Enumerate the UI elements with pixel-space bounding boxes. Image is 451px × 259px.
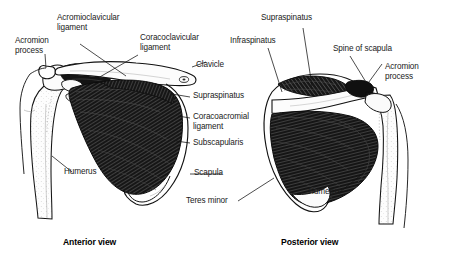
leader-acromion-process-right bbox=[366, 64, 382, 86]
label-humerus-posterior: Humerus bbox=[308, 187, 341, 197]
label-humerus-anterior: Humerus bbox=[64, 167, 97, 177]
acromion-process-anterior bbox=[39, 65, 56, 78]
label-coracoacromial-ligament: Coracoacromial ligament bbox=[193, 112, 249, 132]
label-teres-minor: Teres minor bbox=[186, 196, 228, 206]
anterior-view-illustration bbox=[20, 62, 196, 219]
label-infraspinatus: Infraspinatus bbox=[230, 36, 276, 46]
label-scapula: Scapula bbox=[194, 168, 223, 178]
label-subscapularis: Subscapularis bbox=[193, 138, 243, 148]
shoulder-anatomy-figure: Acromion process Acromioclavicular ligam… bbox=[0, 0, 451, 259]
leader-teres-minor bbox=[238, 178, 274, 201]
label-spine-of-scapula: Spine of scapula bbox=[333, 44, 392, 54]
caption-posterior-view: Posterior view bbox=[281, 237, 338, 247]
label-acromion-process-anterior: Acromion process bbox=[15, 36, 49, 56]
label-acromion-process-posterior: Acromion process bbox=[385, 62, 419, 82]
caption-anterior-view: Anterior view bbox=[63, 237, 116, 247]
leader-infraspinatus bbox=[268, 48, 282, 92]
label-supraspinatus-posterior: Supraspinatus bbox=[261, 13, 312, 23]
label-coracoclavicular-ligament: Coracoclavicular ligament bbox=[140, 33, 199, 53]
posterior-view-illustration bbox=[264, 74, 408, 228]
label-supraspinatus-anterior: Supraspinatus bbox=[193, 91, 244, 101]
label-acromioclavicular-ligament: Acromioclavicular ligament bbox=[57, 13, 119, 33]
label-clavicle: Clavicle bbox=[196, 60, 224, 70]
humerus-anterior-bone bbox=[31, 86, 64, 219]
